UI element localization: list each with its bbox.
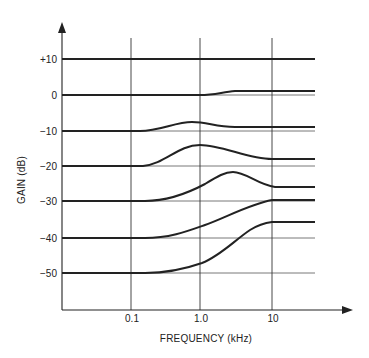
curve-0 xyxy=(62,91,315,95)
x-axis-title: FREQUENCY (kHz) xyxy=(160,333,252,344)
y-tick-label: −50 xyxy=(40,268,57,279)
frequency-response-chart: +10 0 −10 −20 −30 −40 −50 0.1 1.0 10 FRE… xyxy=(0,0,369,358)
x-axis-arrow-icon xyxy=(342,306,353,314)
x-tick-label: 10 xyxy=(267,313,279,324)
y-tick-labels: +10 0 −10 −20 −30 −40 −50 xyxy=(40,54,57,279)
vertical-gridlines xyxy=(131,38,272,310)
y-tick-label: −20 xyxy=(40,161,57,172)
x-tick-label: 1.0 xyxy=(194,313,208,324)
curve-minus20 xyxy=(62,145,315,166)
y-tick-label: 0 xyxy=(51,90,57,101)
axes xyxy=(62,30,345,310)
x-tick-labels: 0.1 1.0 10 xyxy=(125,313,279,324)
y-axis-title: GAIN (dB) xyxy=(16,156,27,204)
curve-minus10 xyxy=(62,122,315,131)
curve-minus30 xyxy=(62,172,315,201)
y-tick-label: −40 xyxy=(40,233,57,244)
y-tick-label: −10 xyxy=(40,126,57,137)
x-tick-label: 0.1 xyxy=(125,313,139,324)
y-tick-label: −30 xyxy=(40,196,57,207)
y-tick-label: +10 xyxy=(40,54,57,65)
curve-minus40 xyxy=(62,200,315,238)
y-axis-arrow-icon xyxy=(58,22,66,33)
